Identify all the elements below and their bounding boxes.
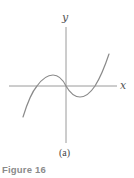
y-axis-label: y	[61, 11, 69, 24]
cubic-graph: x y (a)	[0, 0, 134, 178]
x-axis-label: x	[120, 79, 127, 92]
figure-caption: Figure 16	[2, 164, 46, 175]
panel-label: (a)	[59, 147, 70, 159]
